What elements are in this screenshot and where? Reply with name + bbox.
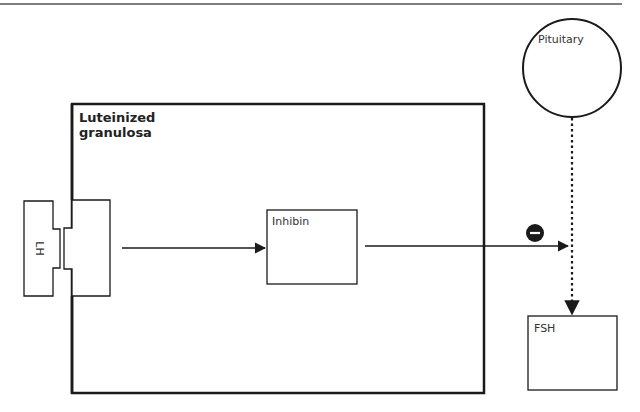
pituitary-label: Pituitary — [538, 33, 584, 46]
diagram-canvas — [0, 0, 640, 412]
cell-label: Luteinized granulosa — [79, 110, 155, 140]
lh-label: LH — [33, 241, 46, 257]
inhibin-label: Inhibin — [272, 215, 309, 228]
cell-label-line2: granulosa — [79, 125, 155, 140]
fsh-label: FSH — [534, 322, 555, 335]
cell-label-line1: Luteinized — [79, 110, 155, 125]
